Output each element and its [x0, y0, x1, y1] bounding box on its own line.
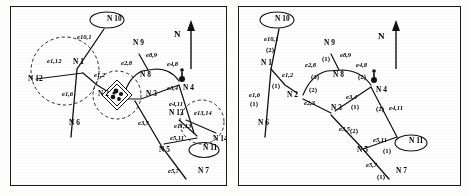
node-label-n3: N 3: [331, 103, 342, 112]
edge-label-e3_5: e3,5: [138, 119, 150, 126]
node-label-n6: N 6: [258, 118, 269, 127]
edge-label-e2_8: e2,8: [305, 61, 317, 68]
pin-icon: [179, 68, 185, 82]
node-label-n5: N 5: [159, 145, 170, 154]
node-label-n6: N 6: [69, 118, 80, 127]
weight-label--1-: (1): [272, 82, 280, 90]
weight-label--1-: (1): [322, 55, 330, 63]
node-label-n1: N 1: [73, 57, 84, 66]
edge-label-e1_6: e1,6: [249, 91, 261, 98]
weight-label--1-: (1): [250, 100, 258, 108]
node-label-n7: N 7: [396, 166, 407, 175]
node-label-n3: N 3: [146, 89, 157, 98]
edge-label-e5_11: e5,11: [170, 134, 184, 141]
weight-label--2-: (2): [376, 105, 384, 113]
edge-label-e1_2: e1,2: [282, 71, 294, 78]
edge-label-e1_12: e1,12: [47, 57, 62, 64]
edge-label-e4_11: e4,11: [169, 100, 183, 107]
node-label-n2: N 2: [287, 90, 298, 99]
node-label-n12: N 12: [28, 74, 43, 83]
right-node-labels: N 10N 1N 6N 2N 9N 8N 3N 4N 11N 5N 7: [258, 14, 423, 175]
panel-network-without-weights: N N 10N 1N 12N 6N 2N 9N 8N 3N 4N 13N 14N…: [10, 6, 227, 186]
edge-label-e10_1: e10,1: [77, 33, 91, 40]
edge-label-e5_7: e5,7: [168, 167, 180, 174]
node-label-n13: N 13: [169, 108, 184, 117]
node-label-n11: N 11: [203, 143, 217, 152]
compass-label: N: [378, 31, 385, 41]
panel-network-with-weights: N N 10N 1N 6N 2N 9N 8N 3N 4N 11N 5N 7 e1…: [238, 6, 461, 186]
node-label-n9: N 9: [133, 38, 144, 47]
compass-label: N: [174, 29, 181, 39]
edge-label-e10_1: e10,1: [264, 35, 278, 42]
node-label-n8: N 8: [333, 70, 344, 79]
node-label-n1: N 1: [261, 58, 272, 67]
weight-label--2-: (2): [266, 46, 274, 54]
node-label-n9: N 9: [324, 38, 335, 47]
edge-label-e5_11: e5,11: [373, 136, 387, 143]
left-edge-labels: e10,1e1,12e1,6e1,2e2,8e8,9e4,8e3,4e4,11e…: [47, 33, 212, 174]
weight-label--2-: (2): [350, 127, 358, 135]
node-label-n4: N 4: [376, 85, 387, 94]
node-label-n4: N 4: [183, 83, 194, 92]
right-diagram-svg: N N 10N 1N 6N 2N 9N 8N 3N 4N 11N 5N 7 e1…: [239, 7, 460, 185]
node-label-n2: N 2: [98, 89, 109, 98]
left-diagram: N N 10N 1N 12N 6N 2N 9N 8N 3N 4N 13N 14N…: [11, 7, 226, 185]
node-label-n10: N 10: [275, 14, 290, 23]
edge-label-e13_14: e13,14: [194, 109, 212, 116]
north-arrow-icon: [187, 20, 195, 69]
figure-canvas: N N 10N 1N 12N 6N 2N 9N 8N 3N 4N 13N 14N…: [0, 0, 469, 196]
right-diagram: N N 10N 1N 6N 2N 9N 8N 3N 4N 11N 5N 7 e1…: [239, 7, 460, 185]
edge-e8-9: [331, 54, 339, 70]
weight-label--2-: (2): [358, 73, 366, 81]
node-label-n5: N 5: [357, 145, 368, 154]
node-label-n8: N 8: [140, 70, 151, 79]
edge-label-e3_4: e3,4: [167, 84, 179, 91]
edge-label-e4_11: e4,11: [389, 104, 403, 111]
edge-label-e11_13: e11,13: [174, 122, 192, 129]
edge-label-e8_9: e8,9: [340, 51, 352, 58]
north-arrow-icon: [392, 20, 400, 69]
weight-label--1-: (1): [351, 103, 359, 111]
edge-label-e3_4: e3,4: [346, 93, 358, 100]
node-label-n10: N 10: [107, 14, 122, 23]
weight-label--1-: (1): [377, 173, 385, 181]
edge-label-e4_8: e4,8: [167, 60, 179, 67]
edge-e4-11: [371, 87, 397, 137]
edge-label-e8_9: e8,9: [146, 51, 158, 58]
node-label-n7: N 7: [198, 166, 209, 175]
weight-label--2-: (2): [309, 86, 317, 94]
edge-label-e2_8: e2,8: [121, 59, 133, 66]
weight-label--3-: (3): [311, 73, 319, 81]
node-label-n11: N 11: [409, 136, 423, 145]
edge-label-e1_6: e1,6: [62, 90, 74, 97]
weight-label--1-: (1): [383, 147, 391, 155]
edge-label-e5_7: e5,7: [366, 161, 378, 168]
edge-label-e2_3: e2,3: [304, 99, 316, 106]
edge-label-e1_2: e1,2: [94, 71, 106, 78]
node-label-n14: N 14: [213, 134, 226, 143]
pin-icon: [371, 69, 377, 83]
left-diagram-svg: N N 10N 1N 12N 6N 2N 9N 8N 3N 4N 13N 14N…: [11, 7, 226, 185]
edge-label-e4_8: e4,8: [356, 61, 368, 68]
